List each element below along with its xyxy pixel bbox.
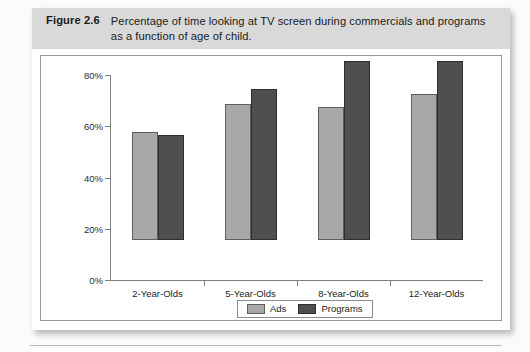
x-axis-category-label: 2-Year-Olds bbox=[132, 288, 182, 299]
bar-programs-5-year-olds bbox=[251, 89, 277, 240]
y-axis-tick-label: 60% bbox=[45, 121, 103, 132]
figure-number-label: Figure 2.6 bbox=[46, 14, 100, 26]
bar-programs-12-year-olds bbox=[437, 61, 463, 240]
bars-layer bbox=[111, 56, 483, 281]
y-axis-tick bbox=[105, 178, 110, 179]
y-axis-tick bbox=[105, 75, 110, 76]
legend-swatch-programs-icon bbox=[298, 304, 316, 314]
bar-group bbox=[411, 56, 463, 240]
y-axis-tick bbox=[105, 280, 110, 281]
x-axis-category-label: 12-Year-Olds bbox=[409, 288, 465, 299]
x-axis-tick bbox=[204, 281, 205, 286]
y-axis-tick bbox=[105, 126, 110, 127]
y-axis-tick-label: 80% bbox=[45, 70, 103, 81]
bar-ads-8-year-olds bbox=[318, 107, 344, 240]
caption-row: Figure 2.6 Percentage of time looking at… bbox=[46, 14, 494, 43]
bar-programs-2-year-olds bbox=[158, 135, 184, 240]
bar-ads-12-year-olds bbox=[411, 94, 437, 240]
y-axis-tick-label: 0% bbox=[45, 275, 103, 286]
scanned-page: Figure 2.6 Percentage of time looking at… bbox=[0, 0, 530, 352]
bar-group bbox=[225, 56, 277, 240]
legend-label-programs: Programs bbox=[321, 303, 362, 314]
bar-ads-5-year-olds bbox=[225, 104, 251, 240]
y-axis-tick-label: 20% bbox=[45, 223, 103, 234]
x-axis-category-label: 8-Year-Olds bbox=[318, 288, 368, 299]
y-axis-tick-labels: 0%20%40%60%80% bbox=[41, 56, 103, 322]
x-axis-category-label: 5-Year-Olds bbox=[225, 288, 275, 299]
figure-caption-text: Percentage of time looking at TV screen … bbox=[111, 14, 494, 43]
page-bottom-rule bbox=[30, 345, 502, 346]
figure-caption-band: Figure 2.6 Percentage of time looking at… bbox=[32, 8, 510, 49]
bar-chart-plot: 0%20%40%60%80% 2-Year-Olds5-Year-Olds8-Y… bbox=[41, 56, 503, 322]
figure-card: Figure 2.6 Percentage of time looking at… bbox=[32, 8, 510, 330]
x-axis-tick bbox=[390, 281, 391, 286]
x-axis-tick bbox=[297, 281, 298, 286]
legend-swatch-ads-icon bbox=[247, 304, 265, 314]
bar-programs-8-year-olds bbox=[344, 61, 370, 240]
y-axis-tick bbox=[105, 229, 110, 230]
chart-frame: 0%20%40%60%80% 2-Year-Olds5-Year-Olds8-Y… bbox=[40, 55, 502, 321]
bar-group bbox=[318, 56, 370, 240]
legend-item-programs: Programs bbox=[298, 303, 362, 314]
legend-item-ads: Ads bbox=[247, 303, 286, 314]
bar-ads-2-year-olds bbox=[132, 132, 158, 240]
legend-label-ads: Ads bbox=[270, 303, 286, 314]
y-axis-tick-label: 40% bbox=[45, 172, 103, 183]
chart-legend: Ads Programs bbox=[237, 300, 373, 318]
bar-group bbox=[132, 56, 184, 240]
